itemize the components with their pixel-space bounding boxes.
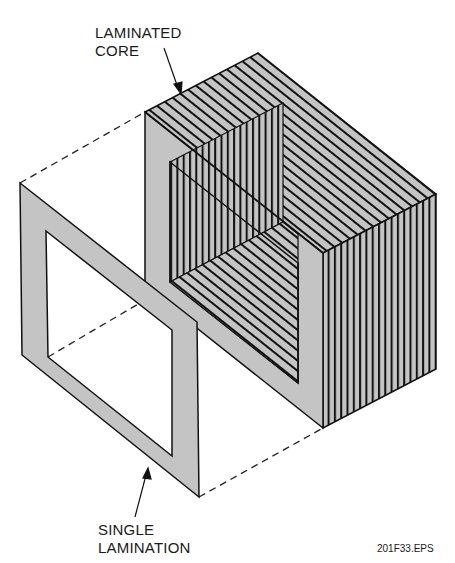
label-single-lamination: SINGLE LAMINATION xyxy=(98,521,191,557)
figure-id: 201F33.EPS xyxy=(377,543,434,554)
label-lamination-line2: LAMINATION xyxy=(98,539,191,557)
label-core-line2: CORE xyxy=(95,42,182,60)
projection-line-bottom xyxy=(199,428,323,497)
lamination-leader-line xyxy=(135,475,146,517)
label-core-line1: LAMINATED xyxy=(95,24,182,42)
projection-line-top xyxy=(20,112,145,183)
diagram-canvas xyxy=(0,0,455,563)
label-lamination-line1: SINGLE xyxy=(98,521,191,539)
lamination-arrowhead-icon xyxy=(143,468,151,479)
projection-line-inner xyxy=(48,300,145,357)
label-laminated-core: LAMINATED CORE xyxy=(95,24,182,60)
core-arrowhead-icon xyxy=(174,82,182,94)
